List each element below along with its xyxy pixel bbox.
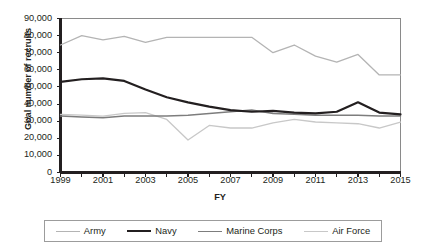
- legend-swatch-icon: [127, 230, 151, 232]
- x-tick-label: 2013: [338, 176, 378, 185]
- legend-item-navy[interactable]: Navy: [127, 226, 176, 235]
- legend-swatch-icon: [56, 231, 80, 232]
- x-tick-label: 1999: [41, 176, 81, 185]
- legend-item-army[interactable]: Army: [56, 226, 106, 235]
- chart-legend: ArmyNavyMarine CorpsAir Force: [44, 220, 382, 242]
- chart-figure: Goal number of recruits 010,00020,00030,…: [0, 0, 426, 249]
- x-tick-label: 2003: [126, 176, 166, 185]
- legend-label: Army: [84, 226, 106, 235]
- legend-label: Navy: [155, 226, 176, 235]
- x-axis-tick-labels: 199920012003200520072009201120132015: [0, 0, 426, 249]
- x-axis-title-text: FY: [214, 192, 226, 202]
- x-tick-label: 2015: [381, 176, 421, 185]
- x-axis-title: FY: [0, 192, 426, 202]
- x-tick-label: 2001: [83, 176, 123, 185]
- x-tick-label: 2007: [211, 176, 251, 185]
- legend-label: Marine Corps: [226, 226, 282, 235]
- x-tick-label: 2005: [168, 176, 208, 185]
- x-tick-label: 2009: [253, 176, 293, 185]
- legend-label: Air Force: [332, 226, 370, 235]
- legend-item-air-force[interactable]: Air Force: [304, 226, 370, 235]
- legend-swatch-icon: [304, 231, 328, 232]
- x-tick-label: 2011: [296, 176, 336, 185]
- legend-item-marine-corps[interactable]: Marine Corps: [198, 226, 282, 235]
- legend-swatch-icon: [198, 231, 222, 232]
